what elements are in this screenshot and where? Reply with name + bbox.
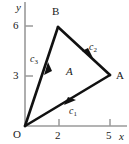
vertex-label-b: B <box>52 6 59 17</box>
curve-label-c1-subscript: 1 <box>73 110 77 118</box>
vector-field-triangle-figure: y x O 6 3 2 5 B A A c1 c2 c3 <box>0 0 129 144</box>
vertex-label-a: A <box>116 70 124 81</box>
figure-canvas <box>0 0 129 144</box>
curve-label-c1: c1 <box>69 106 77 116</box>
origin-label: O <box>13 129 21 140</box>
curve-label-c2: c2 <box>89 42 97 52</box>
y-axis-label: y <box>16 2 21 13</box>
y-tick-label-3: 3 <box>13 70 19 81</box>
y-tick-label-6: 6 <box>13 20 19 31</box>
curve-label-c2-subscript: 2 <box>93 46 97 54</box>
x-tick-label-2: 2 <box>55 130 61 141</box>
x-tick-label-5: 5 <box>106 130 112 141</box>
curve-label-c3: c3 <box>30 54 38 64</box>
curve-label-c3-subscript: 3 <box>34 58 38 66</box>
x-axis-label: x <box>119 131 124 142</box>
region-label-a: A <box>66 66 73 77</box>
